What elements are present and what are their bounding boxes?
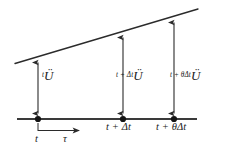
label-acceleration-at-t: tÜ (42, 69, 54, 82)
acceleration-symbol-u-t-plus-dt: Ü (133, 68, 143, 83)
superscript-time-t-plus-theta-dt: t + θΔt (170, 71, 191, 79)
label-acceleration-at-t-plus-dt: t + ΔtÜ (116, 69, 143, 82)
superscript-time-t-plus-dt: t + Δt (116, 71, 133, 79)
axis-label-t-plus-theta-dt: t + θΔt (156, 122, 186, 133)
axis-label-tau: τ (63, 134, 67, 145)
axis-label-t-plus-dt: t + Δt (106, 122, 131, 133)
point-marker-t (35, 116, 41, 122)
label-acceleration-at-t-plus-theta-dt: t + θΔtÜ (170, 69, 200, 82)
acceleration-line (15, 9, 198, 64)
axis-label-t: t (35, 134, 38, 145)
acceleration-symbol-u-t-plus-theta-dt: Ü (191, 68, 201, 83)
acceleration-assumption-diagram: tÜ t + ΔtÜ t + θΔtÜ t τ t + Δt t + θΔt (0, 0, 228, 154)
acceleration-symbol-u-t: Ü (44, 68, 54, 83)
